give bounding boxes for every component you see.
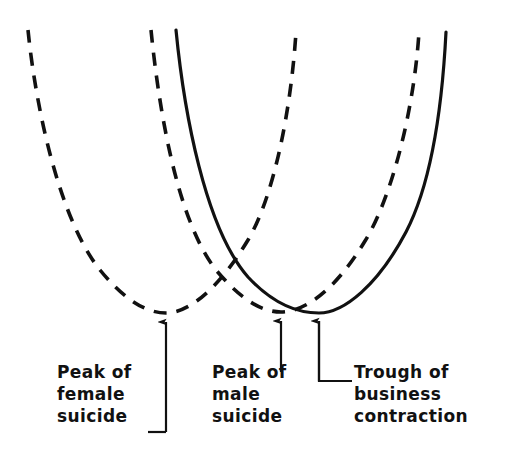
annotation-line-1: Trough of — [354, 361, 468, 383]
annotation-line-1: Peak of — [212, 361, 287, 383]
annotation-line-3: suicide — [212, 405, 287, 427]
annotation-line-1: Peak of — [57, 361, 132, 383]
curve-female-suicide — [28, 30, 296, 313]
curve-male-suicide — [151, 30, 419, 312]
leader-peak-female-suicide — [148, 322, 166, 432]
annotation-line-2: business — [354, 383, 468, 405]
figure-panel: Peak of female suicide Peak of male suic… — [0, 0, 517, 459]
annotation-line-2: female — [57, 383, 132, 405]
curve-business-cycle — [176, 30, 446, 313]
annotation-label-trough-business-contraction: Trough of business contraction — [354, 361, 468, 427]
annotation-line-2: male — [212, 383, 287, 405]
annotation-line-3: contraction — [354, 405, 468, 427]
annotation-label-peak-female-suicide: Peak of female suicide — [57, 361, 132, 427]
annotation-label-peak-male-suicide: Peak of male suicide — [212, 361, 287, 427]
annotation-line-3: suicide — [57, 405, 132, 427]
leader-trough-business-contraction — [319, 321, 352, 381]
